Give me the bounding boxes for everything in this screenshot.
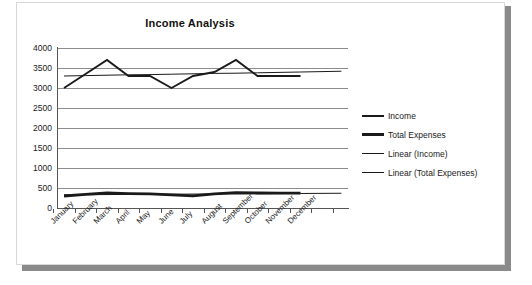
legend-line-icon-linear-total-expenses: [362, 168, 384, 178]
chart-plot-svg: [58, 48, 348, 208]
y-axis-tick-label: 1000: [18, 163, 52, 173]
y-axis-tick-label: 0: [18, 203, 52, 213]
legend-item-total-expenses[interactable]: Total Expenses: [362, 125, 512, 144]
y-axis-tick-labels: 40003500300025002000150010005000: [18, 42, 52, 214]
legend-line-icon-linear-income: [362, 149, 384, 159]
frame-shadow-bottom: [22, 265, 511, 271]
y-axis-tick-label: 2000: [18, 123, 52, 133]
chart-screenshot: Income Analysis 400035003000250020001500…: [0, 0, 532, 285]
x-axis-line: [57, 208, 349, 209]
y-axis-tick-label: 500: [18, 183, 52, 193]
chart-legend: Income Total Expenses Linear (Income) Li…: [362, 106, 512, 182]
legend-label-total-expenses: Total Expenses: [388, 130, 446, 140]
chart-title: Income Analysis: [40, 17, 340, 29]
series-line-total-expenses: [64, 193, 301, 196]
legend-label-linear-income: Linear (Income): [388, 149, 448, 159]
legend-line-icon-income: [362, 111, 384, 121]
legend-line-icon-total-expenses: [362, 130, 384, 140]
y-axis-tick-label: 1500: [18, 143, 52, 153]
legend-label-income: Income: [388, 111, 416, 121]
y-axis-tick-label: 2500: [18, 103, 52, 113]
legend-label-linear-total-expenses: Linear (Total Expenses): [388, 168, 477, 178]
y-axis-tick-label: 3000: [18, 83, 52, 93]
plot-area: [58, 48, 348, 208]
y-axis-tick-label: 4000: [18, 43, 52, 53]
legend-item-income[interactable]: Income: [362, 106, 512, 125]
legend-item-linear-total-expenses[interactable]: Linear (Total Expenses): [362, 163, 512, 182]
legend-item-linear-income[interactable]: Linear (Income): [362, 144, 512, 163]
y-axis-tick-label: 3500: [18, 63, 52, 73]
